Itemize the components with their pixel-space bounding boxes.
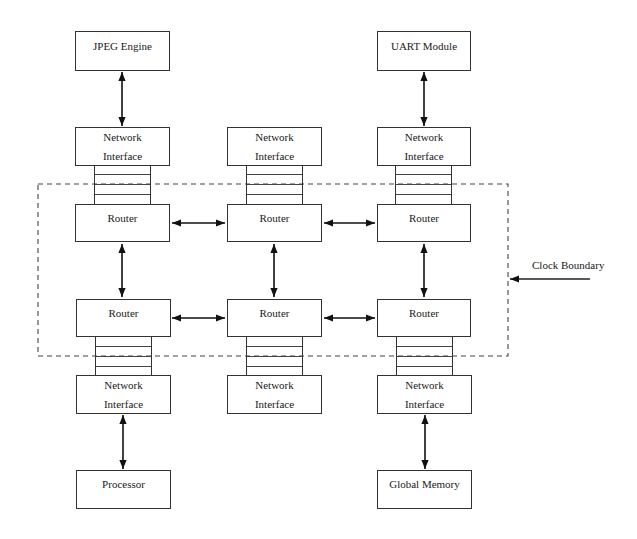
fifo-buffer-bottom-3	[396, 337, 453, 375]
fifo-buffer-bottom-1	[95, 337, 152, 375]
ni-label-line2: Interface	[104, 395, 143, 414]
fifo-buffer-bottom-2	[246, 337, 303, 375]
ni-label-line1: Network	[405, 128, 444, 147]
ni-label-line1: Network	[405, 376, 444, 395]
router-r2-c3: Router	[377, 299, 471, 337]
ni-label-line2: Interface	[404, 147, 443, 166]
network-interface-bottom-3: Network Interface	[377, 375, 472, 414]
router-label: Router	[109, 304, 139, 323]
ni-label-line2: Interface	[255, 147, 294, 166]
ni-label-line2: Interface	[255, 395, 294, 414]
router-vertical-links	[122, 244, 424, 297]
network-interface-bottom-1: Network Interface	[76, 375, 171, 414]
ni-label-line2: Interface	[103, 147, 142, 166]
uart-module-block: UART Module	[377, 31, 471, 71]
router-r1-c1: Router	[75, 204, 170, 242]
router-r2-c2: Router	[227, 299, 322, 337]
fifo-buffer-top-3	[395, 166, 452, 204]
processor-label: Processor	[102, 475, 145, 494]
router-label: Router	[260, 209, 290, 228]
router-r1-c3: Router	[377, 204, 471, 242]
ni-label-line1: Network	[255, 128, 294, 147]
router-label: Router	[409, 304, 439, 323]
router-label: Router	[108, 209, 138, 228]
network-interface-bottom-2: Network Interface	[227, 375, 322, 414]
clock-boundary-label: Clock Boundary	[532, 259, 604, 271]
fifo-buffer-top-1	[94, 166, 151, 204]
fifo-buffer-top-2	[246, 166, 303, 204]
ni-label-line2: Interface	[405, 395, 444, 414]
global-memory-block: Global Memory	[377, 470, 472, 509]
router-r2-c1: Router	[76, 299, 171, 337]
ni-label-line1: Network	[104, 376, 143, 395]
uart-module-label: UART Module	[391, 37, 457, 56]
jpeg-engine-block: JPEG Engine	[75, 31, 170, 71]
ni-label-line1: Network	[103, 128, 142, 147]
ni-label-line1: Network	[255, 376, 294, 395]
network-interface-top-2: Network Interface	[227, 127, 322, 166]
router-label: Router	[260, 304, 290, 323]
router-label: Router	[409, 209, 439, 228]
global-memory-label: Global Memory	[389, 475, 460, 494]
processor-block: Processor	[76, 470, 171, 509]
network-interface-top-3: Network Interface	[377, 127, 471, 166]
network-interface-top-1: Network Interface	[75, 127, 170, 166]
jpeg-engine-label: JPEG Engine	[93, 37, 152, 56]
router-r1-c2: Router	[227, 204, 322, 242]
